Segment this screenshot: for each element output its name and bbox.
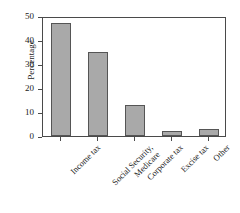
- x-tick-mark: [171, 137, 172, 141]
- y-tick-label: 0: [30, 131, 35, 141]
- y-tick-label: 40: [25, 35, 34, 45]
- bar-chart: Percentage 01020304050 Income taxSocial …: [0, 0, 240, 213]
- y-tick-label: 10: [25, 107, 34, 117]
- y-tick-label: 50: [25, 11, 34, 21]
- bar: [199, 129, 219, 136]
- x-tick-label-line: Income tax: [70, 143, 104, 177]
- x-tick-label: Other: [211, 143, 231, 163]
- x-tick-label-line: Other: [211, 143, 231, 163]
- y-tick-label: 20: [25, 83, 34, 93]
- plot-area: [42, 17, 226, 137]
- x-tick-mark: [208, 137, 209, 141]
- bar: [125, 105, 145, 136]
- y-tick-label: 30: [25, 59, 34, 69]
- y-tick-mark: [38, 137, 42, 138]
- bar: [88, 52, 108, 136]
- bar: [51, 23, 71, 136]
- x-tick-label: Income tax: [70, 143, 104, 177]
- x-tick-mark: [60, 137, 61, 141]
- x-tick-mark: [134, 137, 135, 141]
- bar: [162, 131, 182, 136]
- x-tick-mark: [97, 137, 98, 141]
